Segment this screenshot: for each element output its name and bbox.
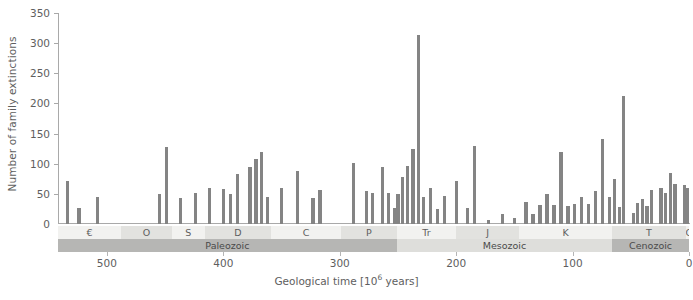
x-tick-label: 500 xyxy=(97,257,117,269)
bar xyxy=(422,197,425,224)
y-tick-mark xyxy=(54,194,59,195)
y-axis-title: Number of family extinctions xyxy=(0,0,24,228)
bar xyxy=(487,220,490,224)
geologic-period: C xyxy=(271,226,341,239)
bar xyxy=(587,204,590,224)
bar xyxy=(580,197,583,224)
bar xyxy=(266,197,269,224)
geologic-era: Mesozoic xyxy=(397,239,612,252)
geologic-period-strip: €OSDCPTrJKTQ xyxy=(42,226,690,239)
geologic-period: Q xyxy=(686,226,689,239)
x-tick-label: 0 xyxy=(686,257,693,269)
bar xyxy=(429,188,432,224)
bar xyxy=(531,214,534,224)
bar xyxy=(645,206,648,224)
bar xyxy=(417,35,420,224)
bar xyxy=(387,193,390,224)
geologic-era: Cenozoic xyxy=(612,239,689,252)
bar xyxy=(641,199,644,224)
bar xyxy=(254,159,257,224)
y-tick-label: 150 xyxy=(30,128,50,140)
x-tick-mark xyxy=(573,252,574,256)
bar xyxy=(396,194,399,224)
bar xyxy=(455,181,458,224)
x-tick-label: 400 xyxy=(213,257,233,269)
bar xyxy=(311,198,314,224)
bar xyxy=(296,171,299,224)
bar xyxy=(632,213,635,224)
bar xyxy=(524,202,527,224)
bar xyxy=(473,146,476,224)
y-axis-title-text: Number of family extinctions xyxy=(6,36,18,191)
geologic-period: O xyxy=(121,226,172,239)
bar xyxy=(513,218,516,224)
bar xyxy=(601,139,604,224)
bar xyxy=(664,193,667,224)
bar xyxy=(165,147,168,224)
bar xyxy=(66,181,69,224)
bar xyxy=(552,205,555,224)
bar xyxy=(352,163,355,224)
bar xyxy=(686,188,689,224)
y-tick-mark xyxy=(54,164,59,165)
bar xyxy=(371,193,374,224)
y-tick-label: 100 xyxy=(30,158,50,170)
geologic-period: T xyxy=(612,226,685,239)
bar xyxy=(260,152,263,224)
geologic-period: D xyxy=(205,226,271,239)
bar xyxy=(443,196,446,224)
bar xyxy=(545,194,548,224)
bar xyxy=(594,191,597,224)
bar xyxy=(194,193,197,224)
bar xyxy=(669,173,672,224)
bar xyxy=(401,177,404,224)
geologic-era-strip: PaleozoicMesozoicCenozoic xyxy=(42,239,690,252)
bar xyxy=(618,207,621,224)
bar xyxy=(77,208,80,224)
x-tick-label: 200 xyxy=(446,257,466,269)
geologic-period: P xyxy=(341,226,397,239)
x-tick-mark xyxy=(456,252,457,256)
x-tick-mark xyxy=(107,252,108,256)
geologic-period: K xyxy=(519,226,612,239)
x-axis-title-prefix: Geological time [10 xyxy=(274,275,377,287)
bar xyxy=(179,198,182,224)
y-axis-tick-labels: 050100150200250300350 xyxy=(24,0,54,235)
bar xyxy=(622,96,625,224)
bar xyxy=(222,189,225,224)
x-tick-label: 100 xyxy=(563,257,583,269)
y-tick-mark xyxy=(54,43,59,44)
plot-area xyxy=(58,13,689,224)
bar xyxy=(248,167,251,224)
x-tick-mark xyxy=(340,252,341,256)
y-tick-mark xyxy=(54,13,59,14)
bar xyxy=(501,214,504,224)
bar xyxy=(650,190,653,224)
bar xyxy=(381,167,384,224)
geologic-period: J xyxy=(456,226,519,239)
geologic-period: € xyxy=(58,226,121,239)
bar xyxy=(613,179,616,224)
x-axis-tick-labels: 5004003002001000 xyxy=(0,252,693,272)
bar xyxy=(236,174,239,224)
bar xyxy=(365,191,368,224)
bar xyxy=(538,205,541,224)
bar xyxy=(636,203,639,224)
y-tick-label: 50 xyxy=(37,188,50,200)
bar xyxy=(566,206,569,224)
geologic-era: Paleozoic xyxy=(58,239,397,252)
y-tick-label: 200 xyxy=(30,97,50,109)
x-tick-label: 300 xyxy=(330,257,350,269)
bar xyxy=(466,208,469,224)
y-tick-label: 350 xyxy=(30,7,50,19)
geologic-period: Tr xyxy=(397,226,456,239)
y-tick-label: 250 xyxy=(30,67,50,79)
bar xyxy=(158,194,161,224)
bar xyxy=(559,152,562,224)
bar xyxy=(608,197,611,224)
y-tick-mark xyxy=(54,134,59,135)
bar xyxy=(280,188,283,224)
y-tick-label: 300 xyxy=(30,37,50,49)
bar xyxy=(673,184,676,224)
bar xyxy=(318,190,321,224)
